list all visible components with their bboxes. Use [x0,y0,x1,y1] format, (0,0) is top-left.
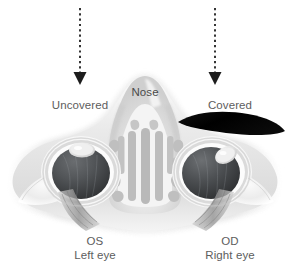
label-left-eye-name: Left eye [35,248,155,262]
label-left-eye-code: OS [35,234,155,248]
label-right-eye-code: OD [170,234,290,248]
label-uncovered: Uncovered [0,98,160,112]
label-right-eye-group: OD Right eye [170,234,290,263]
dashed-down-arrow-right [209,8,222,85]
dashed-down-arrow-left [74,8,87,85]
label-right-eye-name: Right eye [170,248,290,262]
label-left-eye-group: OS Left eye [35,234,155,263]
label-covered: Covered [170,98,290,112]
cover-test-figure: Uncovered Nose Covered OS Left eye OD Ri… [0,0,290,275]
